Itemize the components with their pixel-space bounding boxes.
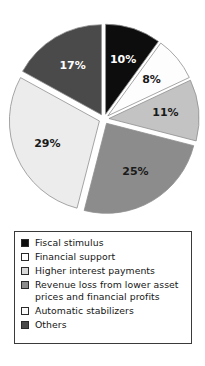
legend-item[interactable]: Financial support [21,251,187,263]
legend-swatch-icon [21,239,29,247]
pie-chart-figure: 10%8%11%25%29%17% Fiscal stimulusFinanci… [0,0,205,366]
legend-swatch-icon [21,321,29,329]
legend-item[interactable]: Higher interest payments [21,265,187,277]
legend-item[interactable]: Fiscal stimulus [21,237,187,249]
legend-swatch-icon [21,281,29,289]
pie-slice-label: 10% [110,53,136,66]
legend-item-label: Automatic stabilizers [35,305,134,317]
pie-slice-label: 17% [59,59,85,72]
legend-item[interactable]: Revenue loss from lower asset prices and… [21,279,187,303]
pie-slice-label: 8% [142,73,161,86]
legend-item-label: Financial support [35,251,115,263]
legend-swatch-icon [21,253,29,261]
pie-slice-label: 25% [122,165,148,178]
legend-swatch-icon [21,267,29,275]
legend-item-label: Higher interest payments [35,265,155,277]
legend-item[interactable]: Automatic stabilizers [21,305,187,317]
legend-item-label: Others [35,319,67,331]
legend-item[interactable]: Others [21,319,187,331]
pie-slice-label: 11% [152,106,178,119]
legend-item-label: Revenue loss from lower asset prices and… [35,279,179,303]
pie-svg: 10%8%11%25%29%17% [0,0,205,228]
pie-slice-label: 29% [34,137,60,150]
legend-item-label: Fiscal stimulus [35,237,104,249]
pie-chart-plot: 10%8%11%25%29%17% [0,0,205,228]
chart-legend: Fiscal stimulusFinancial supportHigher i… [14,231,192,344]
legend-swatch-icon [21,307,29,315]
